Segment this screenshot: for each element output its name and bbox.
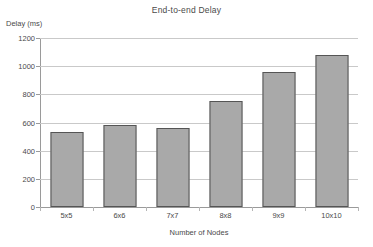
bar-5x5[interactable] <box>50 132 83 207</box>
x-tick-mark <box>40 207 41 211</box>
bar-9x9[interactable] <box>262 72 295 207</box>
x-tick-label: 5x5 <box>60 211 72 220</box>
x-tick-label: 6x6 <box>113 211 125 220</box>
x-axis-tick-labels: 5x56x67x78x89x910x10 <box>40 211 358 225</box>
bar-slot <box>252 38 305 207</box>
chart-title: End-to-end Delay <box>0 5 373 15</box>
x-tick-mark <box>358 207 359 211</box>
x-tick-label: 10x10 <box>321 211 341 220</box>
y-axis-tick-marks <box>0 38 40 207</box>
plot-area <box>40 38 358 207</box>
x-tick-mark <box>93 207 94 211</box>
bar-slot <box>146 38 199 207</box>
bar-8x8[interactable] <box>209 101 242 207</box>
bar-slot <box>305 38 358 207</box>
x-tick-mark <box>199 207 200 211</box>
bar-slot <box>199 38 252 207</box>
bar-6x6[interactable] <box>103 125 136 207</box>
chart-container: End-to-end Delay Delay (ms) 020040060080… <box>0 0 373 247</box>
bar-slot <box>93 38 146 207</box>
x-tick-label: 7x7 <box>166 211 178 220</box>
x-tick-label: 8x8 <box>219 211 231 220</box>
x-axis-label: Number of Nodes <box>40 228 358 237</box>
x-tick-label: 9x9 <box>272 211 284 220</box>
y-axis-label: Delay (ms) <box>6 19 42 28</box>
x-tick-mark <box>146 207 147 211</box>
bar-7x7[interactable] <box>156 128 189 207</box>
bar-slot <box>40 38 93 207</box>
bar-10x10[interactable] <box>315 55 348 207</box>
x-tick-mark <box>252 207 253 211</box>
x-tick-mark <box>305 207 306 211</box>
